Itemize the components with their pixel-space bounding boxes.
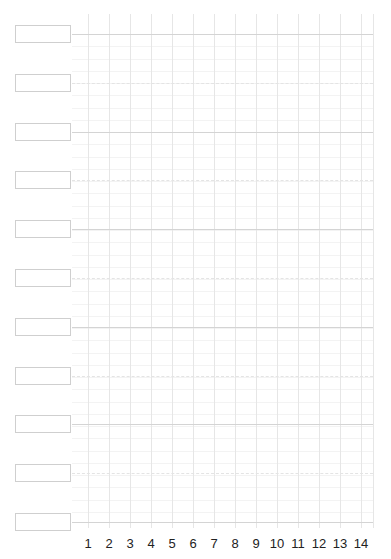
row-line-dashed xyxy=(72,376,373,377)
grid-vertical-line xyxy=(88,14,89,528)
grid-vertical-line xyxy=(214,14,215,528)
column-number: 14 xyxy=(351,536,371,551)
subgrid-line xyxy=(72,500,373,501)
subgrid-line xyxy=(72,230,373,231)
subgrid-line xyxy=(72,267,373,268)
grid-vertical-line xyxy=(298,14,299,528)
row-label-box[interactable] xyxy=(15,318,71,336)
subgrid-line xyxy=(72,169,373,170)
grid-vertical-line xyxy=(172,14,173,528)
row-line-solid xyxy=(72,424,373,425)
grid-right-edge xyxy=(373,14,374,528)
column-number: 3 xyxy=(120,536,140,551)
subgrid-line xyxy=(72,108,373,109)
subgrid-line xyxy=(72,120,373,121)
row-line-dashed xyxy=(72,180,373,181)
grid-vertical-line xyxy=(235,14,236,528)
row-label-box[interactable] xyxy=(15,220,71,238)
row-line-solid xyxy=(72,229,373,230)
subgrid-line xyxy=(72,438,373,439)
subgrid-line xyxy=(72,255,373,256)
row-label-box[interactable] xyxy=(15,74,71,92)
column-number: 8 xyxy=(225,536,245,551)
grid-vertical-line xyxy=(193,14,194,528)
row-line-dashed xyxy=(72,473,373,474)
subgrid-line xyxy=(72,71,373,72)
subgrid-line xyxy=(72,218,373,219)
subgrid-line xyxy=(72,402,373,403)
subgrid-line xyxy=(72,46,373,47)
column-number: 9 xyxy=(246,536,266,551)
subgrid-line xyxy=(72,365,373,366)
grid-vertical-line xyxy=(130,14,131,528)
subgrid-line xyxy=(72,206,373,207)
subgrid-line xyxy=(72,487,373,488)
column-number: 10 xyxy=(267,536,287,551)
subgrid-line xyxy=(72,426,373,427)
row-line-solid xyxy=(72,327,373,328)
grid-vertical-line xyxy=(319,14,320,528)
subgrid-line xyxy=(72,340,373,341)
column-number: 4 xyxy=(141,536,161,551)
column-number: 12 xyxy=(309,536,329,551)
subgrid-line xyxy=(72,389,373,390)
subgrid-line xyxy=(72,475,373,476)
row-line-dashed xyxy=(72,83,373,84)
column-number: 13 xyxy=(330,536,350,551)
subgrid-line xyxy=(72,328,373,329)
grid-vertical-line xyxy=(361,14,362,528)
column-number: 7 xyxy=(204,536,224,551)
subgrid-line xyxy=(72,95,373,96)
subgrid-line xyxy=(72,451,373,452)
row-label-box[interactable] xyxy=(15,464,71,482)
row-line-solid xyxy=(72,34,373,35)
subgrid-line xyxy=(72,463,373,464)
subgrid-line xyxy=(72,242,373,243)
subgrid-line xyxy=(72,181,373,182)
column-number: 6 xyxy=(183,536,203,551)
subgrid-line xyxy=(72,157,373,158)
row-label-box[interactable] xyxy=(15,513,71,531)
column-number: 2 xyxy=(99,536,119,551)
subgrid-line xyxy=(72,512,373,513)
subgrid-line xyxy=(72,59,373,60)
subgrid-line xyxy=(72,279,373,280)
row-label-box[interactable] xyxy=(15,269,71,287)
practice-grid: 1234567891011121314 xyxy=(0,0,391,559)
subgrid-line xyxy=(72,377,373,378)
column-number: 1 xyxy=(78,536,98,551)
subgrid-line xyxy=(72,353,373,354)
row-label-box[interactable] xyxy=(15,415,71,433)
column-number: 11 xyxy=(288,536,308,551)
grid-vertical-line xyxy=(340,14,341,528)
row-line-solid xyxy=(72,132,373,133)
row-line-solid xyxy=(72,522,373,523)
column-number: 5 xyxy=(162,536,182,551)
subgrid-line xyxy=(72,193,373,194)
grid-vertical-line xyxy=(277,14,278,528)
row-label-box[interactable] xyxy=(15,171,71,189)
row-label-box[interactable] xyxy=(15,367,71,385)
grid-vertical-line xyxy=(256,14,257,528)
row-label-box[interactable] xyxy=(15,25,71,43)
row-line-dashed xyxy=(72,278,373,279)
subgrid-line xyxy=(72,144,373,145)
subgrid-line xyxy=(72,291,373,292)
grid-vertical-line xyxy=(109,14,110,528)
row-label-box[interactable] xyxy=(15,123,71,141)
subgrid-line xyxy=(72,304,373,305)
grid-vertical-line xyxy=(151,14,152,528)
subgrid-line xyxy=(72,414,373,415)
subgrid-line xyxy=(72,316,373,317)
